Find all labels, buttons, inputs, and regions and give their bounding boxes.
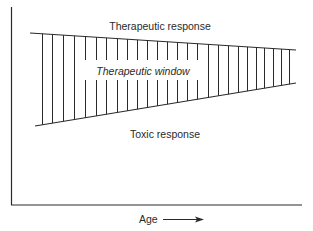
- x-axis-label: Age: [139, 213, 158, 225]
- arrow-right-icon: [163, 217, 204, 223]
- therapeutic-window-diagram: Therapeutic response Therapeutic window …: [0, 0, 313, 231]
- label-therapeutic-response: Therapeutic response: [109, 20, 211, 32]
- label-therapeutic-window: Therapeutic window: [96, 65, 191, 77]
- label-toxic-response: Toxic response: [130, 128, 200, 140]
